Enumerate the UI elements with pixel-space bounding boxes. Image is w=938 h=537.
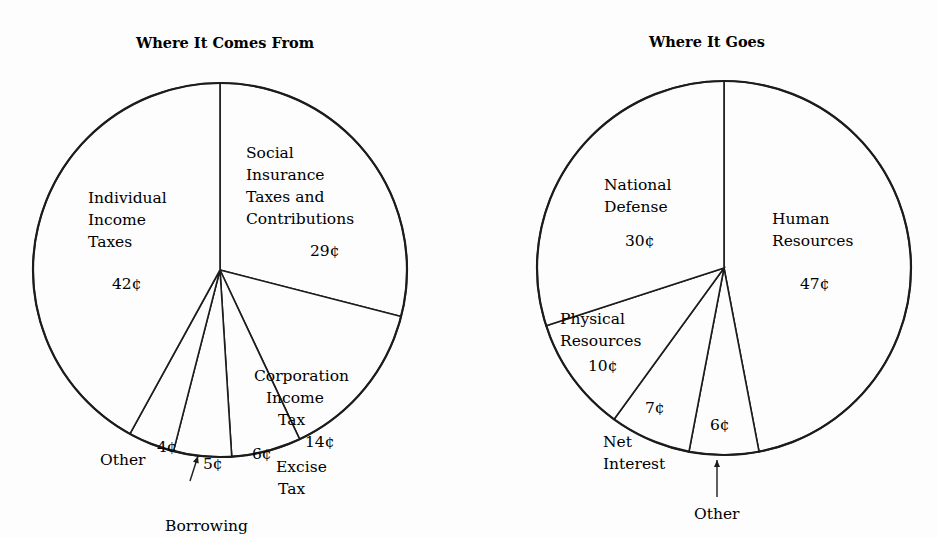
slice-label-line: National bbox=[604, 176, 672, 194]
slice-label-line: Tax bbox=[278, 411, 305, 429]
slice-label-other: Other4¢ bbox=[100, 438, 177, 469]
slice-value: 5¢ bbox=[203, 455, 223, 473]
slice-label-line: Excise bbox=[276, 458, 327, 476]
slice-value: 29¢ bbox=[310, 242, 340, 260]
slice-value: 6¢ bbox=[710, 416, 730, 434]
slice-value: 7¢ bbox=[645, 399, 665, 417]
slice-value: 30¢ bbox=[625, 232, 655, 250]
slice-label-line: Resources bbox=[772, 232, 853, 250]
budget-pie-charts: Where It Comes FromSocialInsuranceTaxes … bbox=[0, 0, 938, 537]
slice-value: 10¢ bbox=[588, 357, 618, 375]
slice-label-line: Other bbox=[100, 451, 146, 469]
slice-value: 47¢ bbox=[800, 275, 830, 293]
slice-label-line: Taxes and bbox=[246, 188, 324, 206]
slice-label-line: Corporation bbox=[254, 367, 349, 385]
slice-value: 14¢ bbox=[305, 433, 335, 451]
slice-label-line: Human bbox=[772, 210, 829, 228]
pie-slice-human-resources bbox=[724, 81, 911, 452]
slice-label-line: Interest bbox=[603, 455, 666, 473]
slice-value: 4¢ bbox=[157, 438, 177, 456]
chart-title: Where It Goes bbox=[648, 33, 765, 50]
slice-label-line: Physical bbox=[560, 310, 625, 328]
slice-label-line: Other bbox=[694, 505, 740, 523]
pie-chart-where-it-goes: Where It GoesHumanResources47¢Other6¢Net… bbox=[537, 33, 911, 523]
pie-chart-where-it-comes-from: Where It Comes FromSocialInsuranceTaxes … bbox=[33, 34, 407, 535]
chart-title: Where It Comes From bbox=[135, 34, 315, 51]
slice-value: 6¢ bbox=[252, 445, 272, 463]
slice-label-line: Taxes bbox=[88, 233, 132, 251]
slice-label-line: Individual bbox=[88, 189, 167, 207]
pointer-arrow-icon bbox=[714, 460, 720, 497]
slice-label-line: Net bbox=[603, 433, 633, 451]
slice-label-line: Social bbox=[246, 144, 294, 162]
slice-label-line: Resources bbox=[560, 332, 641, 350]
slice-value: 42¢ bbox=[112, 275, 142, 293]
slice-label-line: Income bbox=[266, 389, 324, 407]
slice-label-borrowing: Borrowing5¢ bbox=[165, 455, 248, 535]
slice-label-line: Insurance bbox=[246, 166, 325, 184]
slice-label-excise-tax: ExciseTax6¢ bbox=[252, 445, 327, 498]
slice-label-line: Tax bbox=[278, 480, 305, 498]
slice-label-line: Borrowing bbox=[165, 517, 248, 535]
pointer-arrow-icon bbox=[190, 456, 199, 481]
slice-label-line: Defense bbox=[604, 198, 668, 216]
slice-label-line: Income bbox=[88, 211, 146, 229]
slice-label-line: Contributions bbox=[246, 210, 354, 228]
